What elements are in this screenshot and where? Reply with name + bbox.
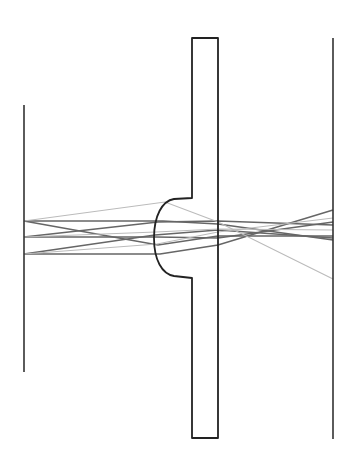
rays-group xyxy=(24,202,333,279)
ray-trace-diagram xyxy=(0,0,356,458)
light-ray xyxy=(24,202,333,279)
